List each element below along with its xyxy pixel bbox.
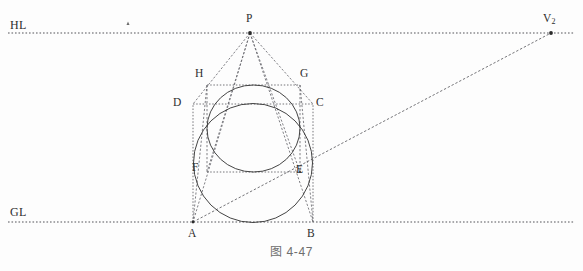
figure-caption: 图 4-47 bbox=[0, 242, 583, 259]
point-label-d: D bbox=[173, 97, 182, 109]
point-label-b: B bbox=[307, 228, 315, 240]
point-label-p: P bbox=[246, 13, 253, 25]
ray-p-to-e bbox=[250, 33, 300, 172]
point-label-h: H bbox=[195, 68, 204, 80]
point-label-v2: V2 bbox=[543, 13, 556, 26]
perspective-rays-group bbox=[193, 33, 313, 222]
point-label-c: C bbox=[316, 97, 324, 109]
point-label-a: A bbox=[188, 228, 197, 240]
point-v2-dot bbox=[549, 31, 553, 35]
point-label-v2-subscript: 2 bbox=[552, 17, 556, 26]
back-inscribed-circle bbox=[207, 85, 300, 172]
figure-container: HL GL P V2 H G D C F E A B 图 4-47 bbox=[0, 0, 583, 271]
hl-tick-mark bbox=[127, 22, 130, 26]
receding-edges-group bbox=[193, 85, 313, 222]
point-label-f: F bbox=[192, 162, 199, 174]
point-label-v2-letter: V bbox=[543, 12, 552, 24]
point-label-g: G bbox=[300, 68, 309, 80]
ground-line-label: GL bbox=[10, 206, 27, 218]
perspective-construction-diagram bbox=[0, 0, 583, 271]
edge-h-to-a bbox=[193, 85, 207, 222]
point-a-dot bbox=[192, 221, 195, 224]
point-p-dot bbox=[248, 31, 252, 35]
front-square-abcd bbox=[193, 104, 313, 222]
horizon-line-label: HL bbox=[10, 19, 27, 31]
point-label-e: E bbox=[296, 164, 303, 176]
diagonal-a-to-v2 bbox=[193, 33, 551, 222]
front-inscribed-circle bbox=[194, 104, 313, 223]
